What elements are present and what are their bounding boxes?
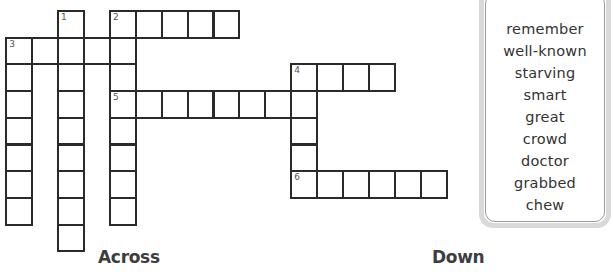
crossword-cell[interactable] [238, 90, 266, 119]
crossword-cell[interactable] [109, 63, 137, 92]
crossword-cell[interactable] [135, 10, 163, 39]
crossword-cell[interactable] [368, 170, 396, 199]
crossword-cell[interactable]: 1 [57, 10, 85, 39]
crossword-cell[interactable] [109, 144, 137, 173]
clue-number: 6 [294, 172, 300, 183]
crossword-cell[interactable] [5, 170, 33, 199]
crossword-cell[interactable] [135, 90, 163, 119]
crossword-cell[interactable] [5, 144, 33, 173]
word-bank-item: remember [484, 18, 606, 40]
crossword-cell[interactable] [290, 144, 318, 173]
crossword-cell[interactable] [264, 90, 292, 119]
clue-number: 3 [9, 39, 15, 50]
word-bank-item: well-known [484, 40, 606, 62]
down-heading: Down [432, 247, 484, 267]
crossword-cell[interactable] [109, 170, 137, 199]
crossword-cell[interactable] [213, 90, 241, 119]
clue-number: 5 [113, 92, 119, 103]
crossword-cell[interactable] [5, 90, 33, 119]
crossword-cell[interactable]: 4 [290, 63, 318, 92]
word-bank-item: starving [484, 62, 606, 84]
crossword-cell[interactable] [342, 63, 370, 92]
crossword-cell[interactable]: 6 [290, 170, 318, 199]
crossword-cell[interactable] [394, 170, 422, 199]
word-bank-list: rememberwell-knownstarvingsmartgreatcrow… [484, 18, 606, 216]
crossword-cell[interactable] [109, 37, 137, 66]
crossword-cell[interactable]: 5 [109, 90, 137, 119]
crossword-cell[interactable] [187, 90, 215, 119]
crossword-cell[interactable] [57, 37, 85, 66]
crossword-cell[interactable] [290, 117, 318, 146]
clue-number: 1 [61, 12, 67, 23]
crossword-cell[interactable]: 3 [5, 37, 33, 66]
crossword-cell[interactable] [213, 10, 241, 39]
crossword-cell[interactable] [57, 144, 85, 173]
clue-number: 4 [294, 65, 300, 76]
crossword-cell[interactable] [57, 63, 85, 92]
crossword-cell[interactable] [57, 197, 85, 226]
crossword-cell[interactable] [316, 170, 344, 199]
crossword-cell[interactable] [187, 10, 215, 39]
crossword-cell[interactable] [5, 197, 33, 226]
word-bank: rememberwell-knownstarvingsmartgreatcrow… [479, 0, 611, 228]
crossword-cell[interactable] [5, 63, 33, 92]
clue-number: 2 [113, 12, 119, 23]
word-bank-item: great [484, 106, 606, 128]
crossword-cell[interactable] [83, 37, 111, 66]
crossword-cell[interactable] [57, 170, 85, 199]
crossword-cell[interactable] [161, 10, 189, 39]
crossword-grid: 125346 [0, 0, 460, 260]
word-bank-item: grabbed [484, 172, 606, 194]
crossword-cell[interactable] [368, 63, 396, 92]
crossword-cell[interactable] [342, 170, 370, 199]
word-bank-item: smart [484, 84, 606, 106]
crossword-cell[interactable] [109, 117, 137, 146]
crossword-cell[interactable] [57, 90, 85, 119]
word-bank-item: doctor [484, 150, 606, 172]
crossword-cell[interactable] [109, 197, 137, 226]
word-bank-item: crowd [484, 128, 606, 150]
crossword-cell[interactable] [316, 63, 344, 92]
crossword-cell[interactable] [161, 90, 189, 119]
crossword-cell[interactable] [290, 90, 318, 119]
crossword-cell[interactable] [31, 37, 59, 66]
crossword-cell[interactable] [420, 170, 448, 199]
crossword-cell[interactable] [57, 117, 85, 146]
crossword-cell[interactable]: 2 [109, 10, 137, 39]
crossword-cell[interactable] [5, 117, 33, 146]
across-heading: Across [98, 247, 160, 267]
word-bank-item: chew [484, 194, 606, 216]
crossword-cell[interactable] [57, 224, 85, 253]
